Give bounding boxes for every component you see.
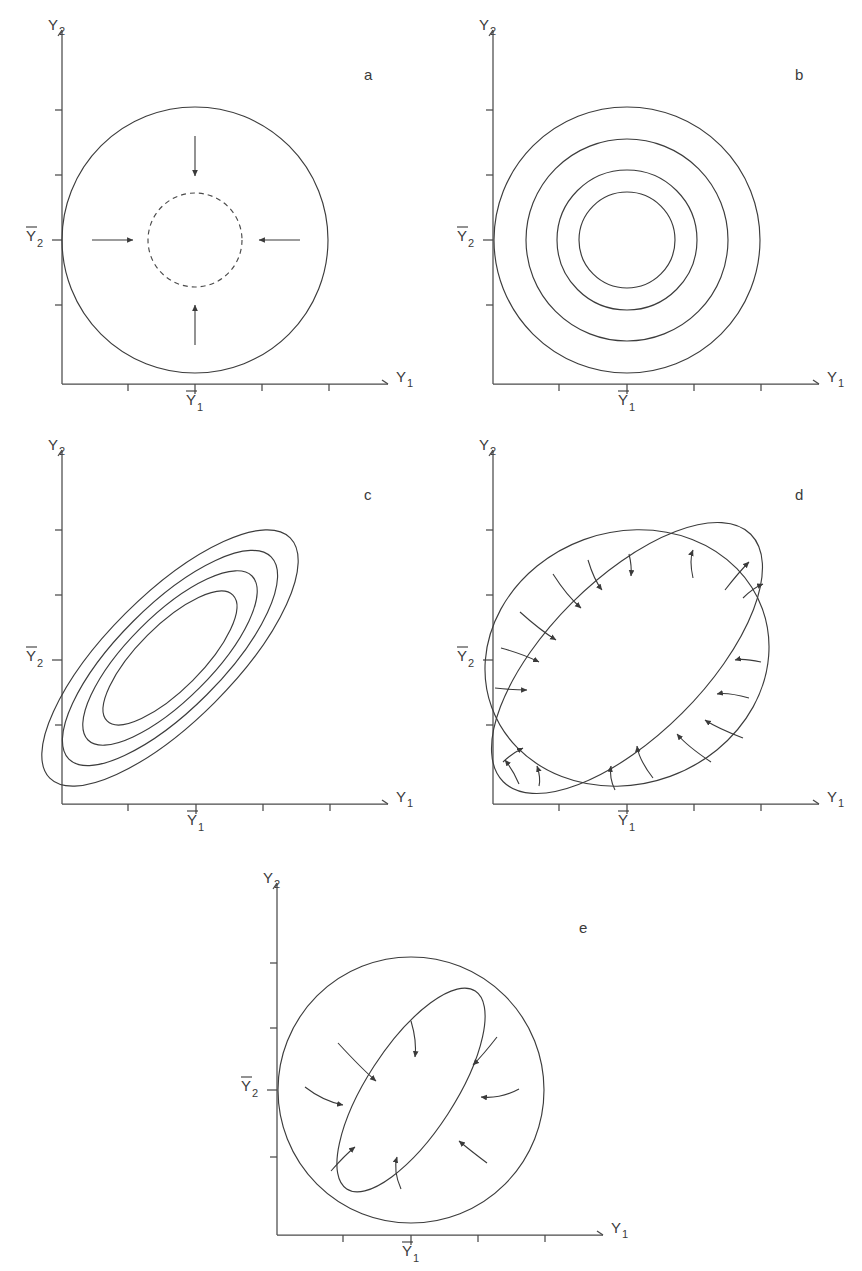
contour-ring-1: [494, 107, 760, 373]
y2-axis-label: Y: [479, 436, 489, 453]
y2-mean-label-sub: 2: [468, 657, 474, 669]
panel-d: Y 2 Y 1 Y 2 Y 1 d: [431, 420, 862, 840]
contour-inner-ellipse: [448, 479, 806, 837]
curved-arrow-icon: [735, 659, 761, 662]
y2-axis-label-sub: 2: [274, 878, 280, 890]
y1-axis-label: Y: [827, 368, 837, 385]
y1-axis-label: Y: [611, 1219, 621, 1236]
figure-container: Y 2 Y 1 Y 2 Y 1 a: [0, 0, 862, 1271]
panel-letter-c: c: [364, 486, 372, 503]
contour-inner-ellipse: [310, 967, 512, 1213]
curved-arrow-icon: [338, 1043, 376, 1081]
y2-axis-label: Y: [263, 869, 273, 886]
y1-axis-label-sub: 1: [407, 377, 413, 389]
y1-axis-label: Y: [396, 788, 406, 805]
y2-mean-label: Y: [26, 227, 36, 244]
panel-letter-a: a: [364, 66, 373, 83]
contour-ellipse-1: [5, 493, 335, 823]
y2-axis-label-sub: 2: [490, 25, 496, 37]
y2-mean-label: Y: [26, 647, 36, 664]
curved-arrow-icon: [331, 1147, 355, 1171]
y1-axis-label: Y: [396, 368, 406, 385]
y2-mean-label-sub: 2: [468, 237, 474, 249]
y2-mean-label: Y: [457, 227, 467, 244]
axes-a: [52, 30, 388, 394]
y2-axis-label-sub: 2: [59, 445, 65, 457]
curved-arrow-icon: [553, 574, 581, 608]
panel-letter-d: d: [795, 486, 803, 503]
axes-e: [267, 883, 603, 1245]
y1-mean-label-sub: 1: [413, 1252, 419, 1264]
curved-arrow-icon: [411, 1021, 416, 1057]
panel-letter-e: e: [579, 919, 587, 936]
curved-arrow-icon: [691, 550, 693, 578]
y2-mean-label: Y: [457, 647, 467, 664]
y1-mean-label: Y: [618, 811, 628, 828]
y1-axis-label-sub: 1: [622, 1228, 628, 1240]
curved-arrow-icon: [459, 1141, 487, 1163]
curved-arrow-icon: [305, 1087, 343, 1105]
y2-mean-label-sub: 2: [37, 657, 43, 669]
y1-mean-label-sub: 1: [629, 821, 635, 833]
contour-ring-4: [579, 192, 675, 288]
y2-axis-label-sub: 2: [59, 25, 65, 37]
y1-mean-label: Y: [186, 391, 196, 408]
y1-axis-label: Y: [827, 788, 837, 805]
axes-c: [52, 450, 388, 814]
curved-arrow-icon: [637, 746, 653, 778]
y1-mean-label: Y: [618, 391, 628, 408]
curved-arrow-icon: [473, 1037, 497, 1065]
arrow-group-a: [92, 136, 300, 345]
y2-axis-label: Y: [479, 16, 489, 33]
panel-b: Y 2 Y 1 Y 2 Y 1 b: [431, 0, 862, 420]
curved-arrow-icon: [505, 760, 519, 784]
curved-arrow-icon: [537, 766, 540, 786]
y2-axis-label: Y: [48, 16, 58, 33]
y1-axis-label-sub: 1: [838, 797, 844, 809]
contour-ring-2: [526, 139, 728, 341]
contour-outer-ellipse: [449, 490, 806, 825]
panel-c: Y 2 Y 1 Y 2 Y 1 c: [0, 420, 431, 840]
contour-ring-3: [557, 170, 697, 310]
y2-mean-label: Y: [241, 1077, 251, 1094]
y1-axis-label-sub: 1: [407, 797, 413, 809]
curved-arrow-icon: [629, 554, 631, 576]
y2-mean-label-sub: 2: [252, 1087, 258, 1099]
arrow-group-e: [305, 1021, 519, 1189]
axes-b: [483, 30, 819, 394]
y1-mean-label: Y: [402, 1242, 412, 1259]
contour-ellipse-3: [58, 546, 281, 769]
contour-ellipse-2: [32, 520, 308, 796]
y1-mean-label-sub: 1: [198, 821, 204, 833]
curved-arrow-icon: [501, 648, 539, 662]
contour-group-d: [448, 479, 806, 837]
panel-e: Y 2 Y 1 Y 2 Y 1 e: [215, 845, 646, 1271]
y1-mean-label-sub: 1: [197, 401, 203, 413]
contour-inner-circle-dashed: [148, 193, 242, 287]
contour-ellipse-4: [84, 572, 255, 743]
curved-arrow-icon: [396, 1157, 401, 1189]
panel-letter-b: b: [795, 66, 803, 83]
curved-arrow-icon: [725, 562, 749, 590]
y2-mean-label-sub: 2: [37, 237, 43, 249]
curved-arrow-icon: [495, 688, 527, 690]
panel-a: Y 2 Y 1 Y 2 Y 1 a: [0, 0, 431, 420]
curved-arrow-icon: [503, 748, 523, 762]
curved-arrow-icon: [717, 694, 749, 699]
contour-group-c: [5, 493, 335, 823]
curved-arrow-icon: [481, 1089, 519, 1097]
y1-mean-label: Y: [187, 811, 197, 828]
contour-outer-circle: [278, 957, 544, 1223]
y2-axis-label-sub: 2: [490, 445, 496, 457]
contour-group-e: [278, 957, 544, 1223]
y2-axis-label: Y: [48, 436, 58, 453]
y1-axis-label-sub: 1: [838, 377, 844, 389]
y1-mean-label-sub: 1: [629, 401, 635, 413]
curved-arrow-icon: [705, 720, 743, 738]
arrow-group-d: [495, 550, 763, 790]
